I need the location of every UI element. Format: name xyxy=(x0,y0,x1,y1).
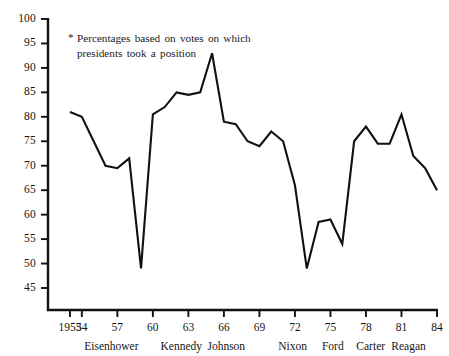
y-axis-tick-label: 50 xyxy=(6,258,36,270)
president-label: Eisenhower xyxy=(71,341,151,353)
x-axis-tick-label: 54 xyxy=(62,322,102,334)
y-axis-tick-label: 60 xyxy=(6,209,36,221)
chart-annotation: * Percentages based on votes on which pr… xyxy=(68,31,298,61)
y-axis-tick-label: 85 xyxy=(6,86,36,98)
y-axis-tick-label: 45 xyxy=(6,282,36,294)
x-axis-tick-label: 57 xyxy=(97,322,137,334)
x-axis-tick-label: 78 xyxy=(346,322,386,334)
x-axis-tick-label: 84 xyxy=(417,322,449,334)
president-label: Reagan xyxy=(369,341,449,353)
y-axis-tick-label: 55 xyxy=(6,233,36,245)
y-axis-tick-label: 100 xyxy=(6,13,36,25)
x-axis-tick-label: 69 xyxy=(239,322,279,334)
x-axis-tick-label: 81 xyxy=(381,322,421,334)
chart-container: 1009590858075706560555045 19535457606366… xyxy=(0,0,449,356)
y-axis-tick-label: 95 xyxy=(6,37,36,49)
x-axis-tick-label: 66 xyxy=(204,322,244,334)
x-axis-tick-label: 75 xyxy=(310,322,350,334)
annotation-text: Percentages based on votes on which pres… xyxy=(68,31,298,61)
x-axis-tick-label: 60 xyxy=(133,322,173,334)
data-series-line xyxy=(70,53,437,268)
y-axis-tick-label: 75 xyxy=(6,135,36,147)
annotation-asterisk: * xyxy=(68,30,74,45)
y-axis-tick-label: 80 xyxy=(6,111,36,123)
y-axis-tick-label: 90 xyxy=(6,62,36,74)
y-axis-tick-label: 70 xyxy=(6,160,36,172)
y-axis-tick-label: 65 xyxy=(6,184,36,196)
x-axis-tick-label: 72 xyxy=(275,322,315,334)
x-axis-tick-label: 63 xyxy=(168,322,208,334)
axis-layer xyxy=(41,18,438,317)
